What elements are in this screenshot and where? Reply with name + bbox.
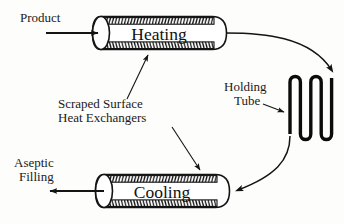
- holding-tube-pointer: [263, 104, 284, 112]
- heating-to-holding-tube-pipe: [226, 33, 332, 70]
- cooling-label: Cooling: [134, 182, 191, 202]
- holding-tube-coil: [290, 76, 332, 139]
- flow-diagram-canvas: Heating Cooling Product Aseptic Filling …: [0, 0, 344, 224]
- holding-tube-label-line1: Holding: [224, 79, 267, 94]
- holding-tube[interactable]: [290, 76, 332, 139]
- scraped-surface-label-line1: Scraped Surface: [58, 96, 143, 111]
- scraped-surface-label-line2: Heat Exchangers: [58, 110, 146, 125]
- heating-label: Heating: [131, 24, 187, 44]
- product-label: Product: [20, 10, 61, 25]
- holding-tube-to-cooling-pipe: [238, 136, 290, 190]
- holding-tube-label-line2: Tube: [234, 93, 260, 108]
- aseptic-filling-label-line1: Aseptic: [14, 155, 54, 170]
- cooling-unit[interactable]: Cooling: [96, 175, 230, 208]
- process-flow-diagram: Heating Cooling Product Aseptic Filling …: [0, 0, 344, 224]
- aseptic-filling-label-line2: Filling: [19, 169, 54, 184]
- heating-unit[interactable]: Heating: [93, 17, 227, 50]
- scraped-surface-pointer-heating: [127, 55, 148, 99]
- scraped-surface-pointer-cooling: [172, 127, 200, 170]
